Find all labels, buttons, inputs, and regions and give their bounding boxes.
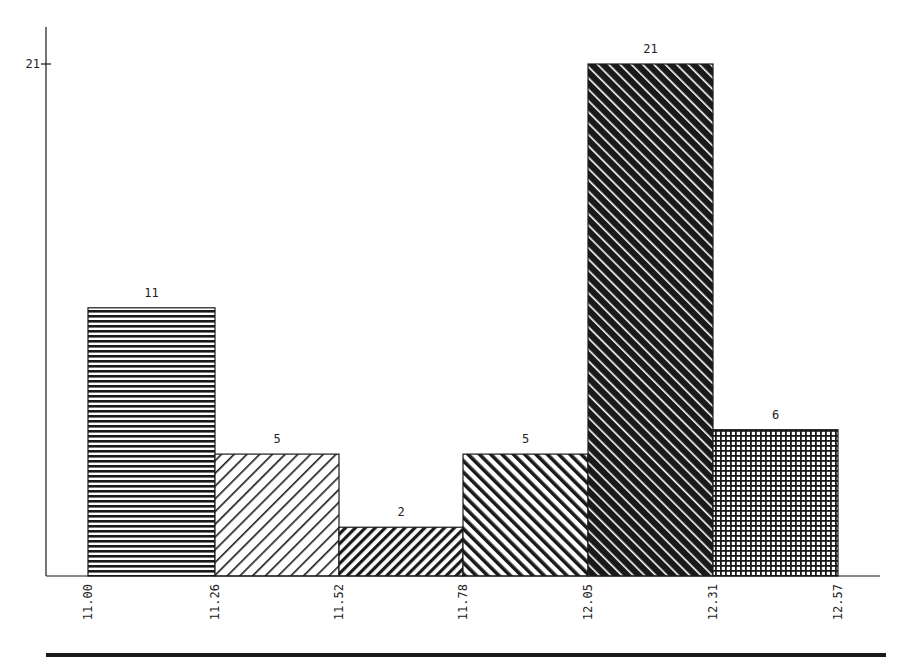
histogram-bar [88,308,215,576]
histogram-bar [588,64,713,576]
x-tick-labels-group: 11.0011.2611.5211.7812.0512.3112.57 [81,584,845,620]
bar-value-label: 21 [643,42,657,56]
bottom-rule [46,653,886,657]
x-tick-label: 11.26 [208,584,222,620]
bar-value-label: 5 [273,432,280,446]
x-tick-label: 12.31 [706,584,720,620]
bar-value-label: 2 [397,505,404,519]
histogram-bar [215,454,339,576]
histogram-bar [339,527,463,576]
histogram-chart: 11525216 21 11.0011.2611.5211.7812.0512.… [0,0,908,666]
x-tick-label: 11.78 [456,584,470,620]
histogram-bar [463,454,588,576]
y-tick-label: 21 [26,57,40,71]
bars-group [88,64,838,576]
x-tick-label: 11.52 [332,584,346,620]
histogram-bar [713,430,838,576]
bar-value-label: 6 [772,408,779,422]
x-tick-label: 12.57 [831,584,845,620]
x-tick-label: 12.05 [581,584,595,620]
bar-value-label: 5 [522,432,529,446]
bar-value-label: 11 [144,286,158,300]
x-tick-label: 11.00 [81,584,95,620]
